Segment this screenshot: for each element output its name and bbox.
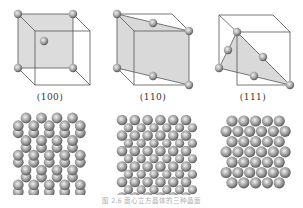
atom [256,167,267,178]
atom [256,126,267,137]
atom [13,150,24,161]
atom [124,170,133,179]
atom [238,157,249,168]
atom [21,113,32,124]
atom [262,136,273,147]
atom [226,136,237,147]
atom [221,167,232,178]
atom [185,81,193,89]
atom [124,185,133,194]
atom [130,177,141,188]
atom [244,126,255,137]
atom [221,146,232,157]
atom [181,130,192,141]
atom [226,157,237,168]
atom [268,167,279,178]
packing-grid-100 [0,110,100,195]
atom [13,179,24,190]
plane-label-111: (111) [223,92,283,102]
atom [149,170,158,179]
atom [137,185,146,194]
atom [232,167,243,178]
atom [117,115,128,126]
atom [142,161,153,172]
atom [75,179,86,190]
atom [117,146,128,157]
atom [142,146,153,157]
atom [226,177,237,188]
atom [117,177,128,188]
atom [117,161,128,172]
atom [188,170,197,179]
atom [280,167,291,178]
atom [238,136,249,147]
cube-110-diagram [100,0,200,105]
atom [13,120,24,131]
atom [69,10,77,18]
atom [130,130,141,141]
atom [149,19,157,27]
atom [113,64,121,72]
atom [52,113,63,124]
atom [181,115,192,126]
atom [250,157,261,168]
cube-111-diagram [203,0,303,105]
atom [232,126,243,137]
atom [21,165,32,176]
atom [268,126,279,137]
atom [130,161,141,172]
atom [274,177,285,188]
plane-label-110: (110) [123,92,183,102]
atom [168,177,179,188]
panel-111: (111) [203,0,303,105]
cube-100-diagram [0,0,100,105]
atom [155,146,166,157]
atom [188,185,197,194]
atom [59,120,70,131]
atom [175,170,184,179]
plane-label-100: (100) [20,92,80,102]
atom [168,130,179,141]
atom [262,177,273,188]
atom [188,123,197,132]
atom [250,136,261,147]
atom [280,126,291,137]
atom [52,135,63,146]
panel-110: (110) [100,0,200,105]
atom [175,185,184,194]
atom [262,115,273,126]
atom [262,157,273,168]
atom [67,135,78,146]
atom [250,177,261,188]
atom [67,165,78,176]
atom [226,115,237,126]
atom [155,130,166,141]
atom [59,179,70,190]
atom [149,154,158,163]
atom [168,115,179,126]
atom [69,64,77,72]
panel-100: (100) [0,0,100,105]
atom [75,150,86,161]
atom [259,53,267,61]
atom [137,139,146,148]
atom [14,64,22,72]
atom [155,161,166,172]
atom [44,150,55,161]
atom [274,157,285,168]
atom [250,115,261,126]
atom [215,64,223,72]
atom [233,28,241,36]
atom [268,146,279,157]
atom [52,165,63,176]
atom [137,123,146,132]
atom [238,177,249,188]
atom [14,10,22,18]
atom [162,185,171,194]
atom [181,146,192,157]
atom [155,115,166,126]
atom [117,130,128,141]
atom [181,161,192,172]
atom [44,179,55,190]
atom [149,185,158,194]
